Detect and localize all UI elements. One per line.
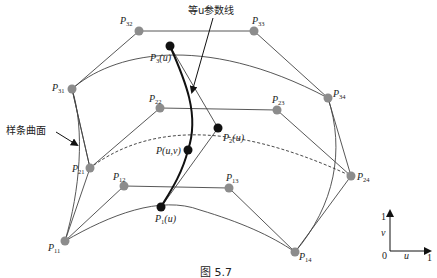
- label-p23: P23: [271, 94, 285, 106]
- control-point-p32: [135, 27, 144, 36]
- curve-point-p3u: [166, 42, 175, 51]
- label-p34: P34: [332, 88, 346, 100]
- control-point-p34: [324, 94, 333, 103]
- annotation-arrow-iso-u: [192, 18, 213, 92]
- label-p14: P14: [298, 251, 312, 263]
- control-point-p33: [250, 27, 259, 36]
- annotation-arrow-spline: [56, 132, 77, 145]
- label-p24: P24: [356, 171, 370, 183]
- iso-u-parameter-curve: [161, 46, 192, 207]
- control-polygon: [65, 31, 351, 252]
- axis-v-label: v: [381, 227, 386, 238]
- control-col-4: [295, 98, 351, 252]
- control-point-p21: [86, 164, 95, 173]
- axis-u-label: u: [404, 250, 409, 261]
- axis-origin-label: 0: [382, 250, 387, 261]
- surface-boundary-curves: [65, 55, 336, 252]
- control-point-labels: P11 P12 P13 P14 P21 P22 P23 P24 P31 P32 …: [47, 15, 370, 263]
- boundary-curve-top: [72, 55, 328, 98]
- label-p13: P13: [225, 172, 239, 184]
- control-point-p23: [273, 106, 282, 115]
- annotation-iso-u-line: 等u参数线: [188, 4, 234, 16]
- axis-v-max: 1: [381, 211, 386, 222]
- curve-points: [157, 42, 223, 212]
- control-point-p11: [61, 237, 70, 246]
- label-p11: P11: [47, 242, 60, 254]
- boundary-curve-bottom: [65, 205, 295, 252]
- tangent-line-p3u-p1u: [170, 46, 218, 128]
- label-p21: P21: [71, 163, 85, 175]
- curve-point-p2u: [214, 124, 223, 133]
- label-p3u: P3(u): [149, 52, 172, 64]
- control-point-p13: [225, 184, 234, 193]
- curve-point-p1u: [157, 203, 166, 212]
- figure-caption: 图 5.7: [200, 266, 232, 278]
- label-p33: P33: [251, 15, 265, 27]
- label-puv: P(u,v): [155, 145, 181, 157]
- axis-u-max: 1: [427, 252, 432, 263]
- tangent-line-p2u-p1u: [161, 128, 218, 207]
- label-p2u: P2(u): [222, 132, 245, 144]
- label-p1u: P1(u): [154, 213, 177, 225]
- control-line-p31-p21-extra: [72, 89, 90, 168]
- annotation-spline-surface: 样条曲面: [6, 124, 46, 136]
- control-row-2: [90, 108, 351, 176]
- boundary-curve-right: [295, 98, 336, 252]
- control-row-1: [65, 186, 295, 252]
- label-p31: P31: [51, 82, 65, 94]
- label-p12: P12: [112, 171, 126, 183]
- curve-point-puv: [184, 146, 193, 155]
- label-p22: P22: [148, 93, 162, 105]
- control-point-p24: [347, 172, 356, 181]
- curve-point-labels: P1(u) P2(u) P3(u) P(u,v): [149, 52, 245, 225]
- spline-surface-diagram: P11 P12 P13 P14 P21 P22 P23 P24 P31 P32 …: [0, 0, 437, 278]
- control-point-p31: [68, 85, 77, 94]
- label-p32: P32: [119, 15, 133, 27]
- parameter-axes: 0 u 1 1 v: [381, 211, 432, 263]
